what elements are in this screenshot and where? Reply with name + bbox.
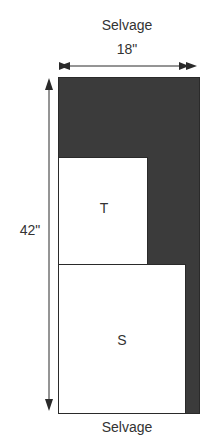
bottom-selvage-label: Selvage [87,419,167,435]
top-selvage-label: Selvage [87,17,167,33]
piece-t-label: T [90,200,118,216]
width-label: 18" [97,41,157,57]
piece-s-label: S [108,332,136,348]
width-arrow-right-head [186,62,197,70]
width-arrow-left-head [59,62,70,70]
height-arrow-top-head [45,78,53,90]
height-arrow-bottom-head [45,399,53,411]
height-label: 42" [10,222,50,238]
